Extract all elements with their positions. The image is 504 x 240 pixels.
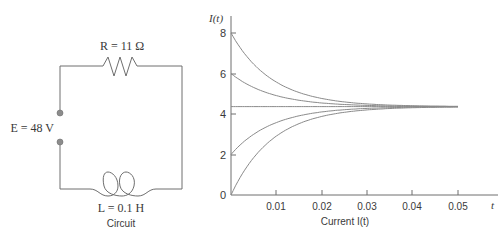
terminal-top: [57, 110, 63, 116]
x-axis-end-label: t: [491, 199, 495, 211]
x-tick-001: 0.01: [266, 201, 286, 212]
x-tick-002: 0.02: [312, 201, 332, 212]
y-tick-6: 6: [220, 68, 226, 80]
terminal-bottom: [57, 139, 63, 145]
y-tick-2: 2: [220, 149, 226, 161]
curve-4: [231, 107, 458, 195]
x-tick-labels: 0.01 0.02 0.03 0.04 0.05: [266, 201, 468, 212]
curve-0: [231, 33, 458, 106]
resistor-label: R = 11 Ω: [100, 39, 144, 53]
circuit-diagram: [60, 57, 182, 196]
inductor-coil: [60, 172, 182, 196]
y-tick-0: 0: [220, 189, 226, 201]
top-wire: [60, 57, 182, 76]
solution-curves: [231, 33, 458, 195]
figure: R = 11 Ω E = 48 V L = 0.1 H Circuit I(t)…: [0, 0, 504, 240]
x-tick-005: 0.05: [448, 201, 468, 212]
y-tick-8: 8: [220, 27, 226, 39]
x-axis-label: Current I(t): [321, 216, 369, 227]
y-tick-4: 4: [220, 108, 226, 120]
y-tick-labels: 8 6 4 2 0: [220, 27, 226, 201]
x-tick-003: 0.03: [357, 201, 377, 212]
curve-3: [231, 107, 458, 155]
source-label: E = 48 V: [10, 121, 54, 135]
x-tick-004: 0.04: [402, 201, 422, 212]
inductor-label: L = 0.1 H: [98, 201, 145, 215]
y-axis-label: I(t): [208, 12, 223, 25]
circuit-caption: Circuit: [107, 218, 136, 229]
